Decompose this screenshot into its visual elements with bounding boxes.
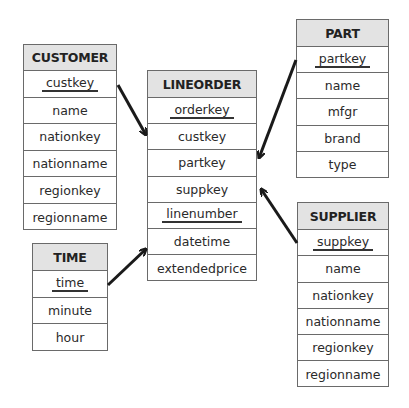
attribute-row: regionname: [24, 204, 116, 231]
entity-title: CUSTOMER: [24, 45, 116, 71]
primary-key: suppkey: [313, 235, 373, 251]
attribute-row: partkey: [297, 47, 388, 73]
attribute-row: partkey: [148, 150, 256, 176]
arrow-time-to-lineorder: [108, 249, 146, 285]
attribute-row: name: [24, 98, 116, 125]
attribute-row: datetime: [148, 229, 256, 255]
attribute-row: name: [298, 256, 388, 282]
entity-title: SUPPLIER: [298, 203, 388, 230]
entity-time: TIME time minute hour: [32, 243, 108, 351]
arrow-customer-to-lineorder: [118, 85, 146, 135]
attribute-row: custkey: [24, 71, 116, 98]
primary-key: time: [52, 276, 88, 292]
entity-customer: CUSTOMER custkey name nationkey nationna…: [23, 44, 117, 230]
attribute-row: name: [297, 73, 388, 99]
attribute-row: time: [33, 271, 107, 298]
arrow-supplier-to-lineorder: [261, 189, 297, 243]
primary-key: custkey: [42, 76, 98, 92]
attribute-row: suppkey: [148, 177, 256, 203]
entity-title: PART: [297, 20, 388, 47]
attribute-row: linenumber: [148, 203, 256, 229]
entity-title: TIME: [33, 244, 107, 271]
primary-key: linenumber: [162, 207, 241, 223]
attribute-row: brand: [297, 126, 388, 152]
attribute-row: minute: [33, 298, 107, 325]
attribute-row: custkey: [148, 124, 256, 150]
attribute-row: regionname: [298, 361, 388, 387]
entity-supplier: SUPPLIER suppkey name nationkey nationna…: [297, 202, 389, 387]
attribute-row: mfgr: [297, 99, 388, 125]
primary-key: partkey: [315, 52, 371, 68]
attribute-row: nationname: [298, 309, 388, 335]
attribute-row: type: [297, 152, 388, 178]
entity-lineorder: LINEORDER orderkey custkey partkey suppk…: [147, 70, 257, 281]
attribute-row: nationname: [24, 151, 116, 178]
attribute-row: hour: [33, 324, 107, 351]
primary-key: orderkey: [170, 103, 233, 119]
entity-part: PART partkey name mfgr brand type: [296, 19, 389, 178]
attribute-row: suppkey: [298, 230, 388, 256]
attribute-row: nationkey: [24, 124, 116, 151]
attribute-row: regionkey: [298, 335, 388, 361]
attribute-row: nationkey: [298, 283, 388, 309]
attribute-row: orderkey: [148, 98, 256, 124]
entity-title: LINEORDER: [148, 71, 256, 98]
arrow-part-to-lineorder: [259, 60, 296, 158]
attribute-row: regionkey: [24, 177, 116, 204]
attribute-row: extendedprice: [148, 255, 256, 281]
